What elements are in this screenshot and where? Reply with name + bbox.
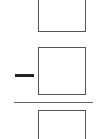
input-box-numerator[interactable] [38, 47, 86, 95]
math-input-canvas [0, 0, 103, 139]
input-box-top[interactable] [38, 0, 86, 32]
input-box-denominator[interactable] [38, 110, 86, 139]
fraction-bar [14, 102, 93, 103]
minus-sign-icon [15, 74, 34, 77]
